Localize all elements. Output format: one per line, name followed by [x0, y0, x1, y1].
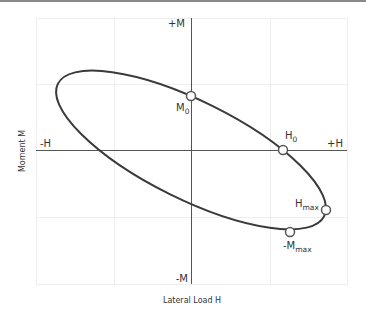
neg-m-label: -M: [176, 273, 188, 284]
pos-m-label: +M: [168, 18, 185, 29]
svg-text:H0: H0: [285, 130, 298, 144]
neg-h-label: -H: [40, 138, 51, 149]
svg-text:M0: M0: [176, 102, 190, 116]
x-axis-title: Lateral Load H: [163, 296, 221, 305]
marker-neg-mmax: -Mmax: [283, 228, 312, 255]
y-axis-title: Moment M: [18, 130, 27, 172]
interaction-diagram: +M -M +H -H M0 H0 Hmax -Mmax Lateral Loa…: [0, 0, 366, 314]
svg-text:-Mmax: -Mmax: [283, 240, 312, 254]
pos-h-label: +H: [327, 138, 343, 149]
marker-m0: M0: [176, 92, 196, 117]
svg-text:Hmax: Hmax: [295, 198, 319, 212]
